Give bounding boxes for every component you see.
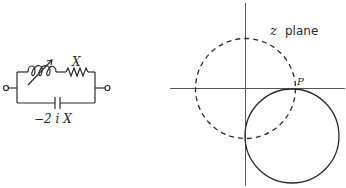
complex-plane [170, 3, 345, 186]
circuit-diagram [4, 60, 111, 109]
figure: X −2 i X z plane P [0, 0, 346, 188]
capacitor-label: −2 i X [34, 112, 72, 126]
right-terminal [105, 86, 110, 91]
resistor-label: X [71, 55, 81, 69]
plane-variable: z [269, 23, 277, 38]
left-terminal [4, 86, 9, 91]
plane-word: plane [285, 24, 318, 38]
point-p-label: P [296, 76, 304, 87]
resistor [66, 68, 88, 76]
